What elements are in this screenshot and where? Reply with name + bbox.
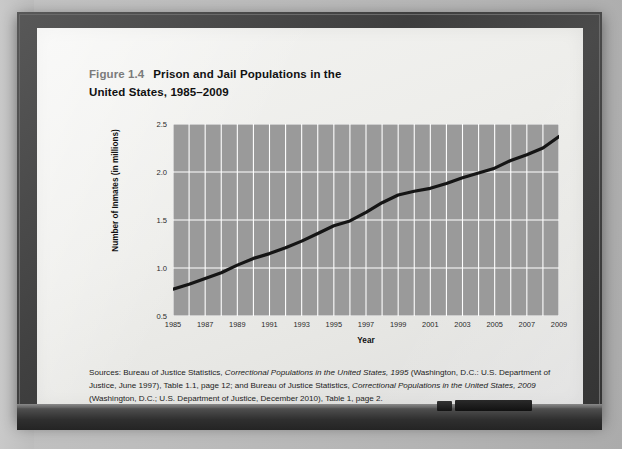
- x-tick-label: 1991: [261, 320, 277, 329]
- whiteboard-frame: Figure 1.4Prison and Jail Populations in…: [17, 12, 602, 422]
- x-axis-label: Year: [173, 336, 559, 345]
- x-tick-label: 2005: [486, 320, 502, 329]
- whiteboard-marker-cap: [437, 401, 452, 411]
- x-tick-label: 2009: [551, 320, 567, 329]
- y-tick-label: 1.5: [141, 216, 167, 225]
- y-tick-label: 1.0: [141, 264, 167, 273]
- chart-svg: [173, 124, 559, 316]
- y-axis-label: Number of Inmates (in millions): [111, 121, 120, 261]
- sources-title-1995: Correctional Populations in the United S…: [225, 368, 409, 377]
- y-tick-label: 2.0: [141, 168, 167, 177]
- sources-text-c: (Washington, D.C.; U.S. Department of Ju…: [89, 394, 383, 403]
- whiteboard-surface: Figure 1.4Prison and Jail Populations in…: [37, 28, 583, 406]
- whiteboard-marker: [455, 400, 532, 411]
- x-tick-label: 1985: [165, 320, 181, 329]
- x-tick-label: 1999: [390, 320, 406, 329]
- x-tick-label: 1997: [358, 320, 374, 329]
- x-tick-label: 1987: [197, 320, 213, 329]
- chart: Number of Inmates (in millions) 0.51.01.…: [89, 124, 571, 374]
- x-tick-label: 1989: [229, 320, 245, 329]
- sources-title-2009: Correctional Populations in the United S…: [352, 381, 536, 390]
- x-tick-label: 2001: [422, 320, 438, 329]
- figure-title: Figure 1.4Prison and Jail Populations in…: [89, 66, 571, 102]
- x-tick-label: 1995: [326, 320, 342, 329]
- y-axis-ticks: 0.51.01.52.02.5: [141, 124, 167, 374]
- x-tick-label: 2007: [519, 320, 535, 329]
- y-tick-label: 2.5: [141, 120, 167, 129]
- sources-text-a: Sources: Bureau of Justice Statistics,: [89, 368, 225, 377]
- y-tick-label: 0.5: [141, 312, 167, 321]
- x-tick-label: 2003: [454, 320, 470, 329]
- x-axis-ticks: 1985198719891991199319951997199920012003…: [173, 320, 559, 334]
- figure-container: Figure 1.4Prison and Jail Populations in…: [89, 66, 571, 426]
- figure-number: Figure 1.4: [89, 68, 144, 80]
- figure-title-line2: United States, 1985–2009: [89, 86, 229, 98]
- plot-area: [173, 124, 559, 316]
- figure-title-line1: Prison and Jail Populations in the: [153, 68, 341, 80]
- x-tick-label: 1993: [293, 320, 309, 329]
